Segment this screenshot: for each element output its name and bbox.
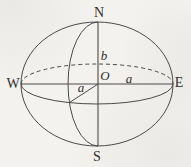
equator-front-arc	[21, 84, 173, 104]
label-center-o: O	[100, 68, 110, 83]
label-radius-a-east: a	[126, 71, 133, 86]
equator-back-dashed-arc	[21, 64, 173, 84]
label-semi-axis-b: b	[101, 48, 108, 63]
label-radius-a-front: a	[78, 80, 85, 95]
label-east-point: E	[175, 75, 184, 90]
label-west-point: W	[6, 76, 20, 91]
label-south-pole: S	[93, 149, 101, 164]
ellipsoid-figure: N S W E O b a a	[0, 0, 191, 167]
label-north-pole: N	[94, 5, 104, 20]
